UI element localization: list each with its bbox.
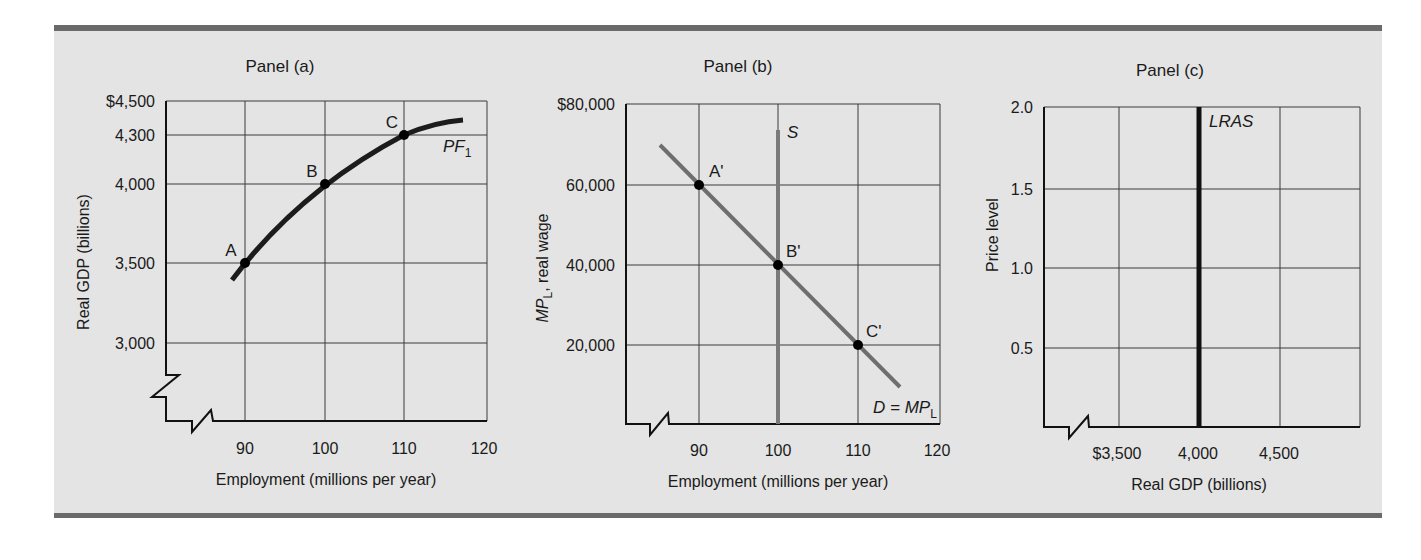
svg-text:90: 90	[690, 442, 708, 459]
panel-a-y-label: Real GDP (billions)	[75, 194, 92, 330]
top-rule	[54, 25, 1382, 31]
svg-text:120: 120	[924, 442, 951, 459]
svg-text:100: 100	[312, 440, 339, 457]
svg-text:$4,500: $4,500	[106, 93, 155, 110]
point-c	[399, 130, 409, 140]
point-a-prime	[694, 180, 704, 190]
panel-b-x-label: Employment (millions per year)	[668, 473, 889, 490]
supply-label: S	[787, 123, 799, 142]
svg-text:4,300: 4,300	[115, 127, 155, 144]
svg-text:1.5: 1.5	[1011, 181, 1033, 198]
svg-text:110: 110	[845, 442, 871, 459]
panel-c-title: Panel (c)	[1136, 61, 1204, 80]
point-a-prime-label: A'	[709, 162, 724, 181]
svg-text:1.0: 1.0	[1011, 260, 1033, 277]
point-b-prime	[773, 260, 783, 270]
point-b	[320, 179, 330, 189]
svg-text:3,500: 3,500	[115, 255, 155, 272]
svg-text:40,000: 40,000	[566, 257, 615, 274]
svg-text:2.0: 2.0	[1011, 99, 1033, 116]
figure: Panel (a) $4,500 4,300 4,000 3,500 3,000…	[0, 0, 1421, 560]
svg-text:110: 110	[391, 440, 417, 457]
panel-a-x-label: Employment (millions per year)	[216, 471, 437, 488]
svg-text:3,000: 3,000	[115, 335, 155, 352]
panel-b-title: Panel (b)	[704, 57, 773, 76]
svg-text:4,500: 4,500	[1259, 445, 1299, 462]
point-b-prime-label: B'	[786, 242, 801, 261]
svg-text:4,000: 4,000	[115, 176, 155, 193]
svg-text:4,000: 4,000	[1178, 445, 1218, 462]
point-c-prime	[853, 340, 863, 350]
point-a	[240, 258, 250, 268]
point-a-label: A	[225, 241, 237, 260]
lras-label: LRAS	[1209, 112, 1254, 131]
bottom-rule	[54, 513, 1382, 518]
svg-text:20,000: 20,000	[566, 337, 615, 354]
point-c-label: C	[386, 113, 398, 132]
panel-c-x-ticks: $3,500 4,000 4,500	[1093, 445, 1300, 462]
svg-text:90: 90	[236, 440, 254, 457]
svg-text:120: 120	[471, 440, 498, 457]
point-b-label: B	[306, 162, 317, 181]
svg-text:100: 100	[765, 442, 792, 459]
svg-text:$3,500: $3,500	[1093, 445, 1142, 462]
svg-text:60,000: 60,000	[566, 177, 615, 194]
svg-text:$80,000: $80,000	[557, 96, 615, 113]
panel-a-title: Panel (a)	[246, 57, 315, 76]
svg-text:0.5: 0.5	[1011, 340, 1033, 357]
point-c-prime-label: C'	[866, 322, 882, 341]
panel-c-y-label: Price level	[984, 198, 1001, 272]
panel-c-x-label: Real GDP (billions)	[1131, 476, 1267, 493]
